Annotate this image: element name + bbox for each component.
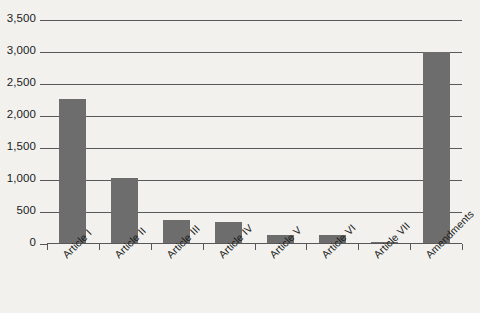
y-axis-tick-label: 500 [0,204,36,216]
y-axis-labels: 05001,0001,5002,0002,5003,0003,500 [0,0,36,313]
x-axis-tick [462,244,463,250]
gridline [47,148,462,149]
bar [59,99,86,244]
y-axis-tick [40,20,47,21]
gridline [47,52,462,53]
gridline [47,84,462,85]
y-axis-tick-label: 1,000 [0,172,36,184]
x-axis-tick [358,244,359,250]
y-axis-tick-label: 3,500 [0,12,36,24]
y-axis-tick [40,180,47,181]
y-axis-tick-label: 2,000 [0,108,36,120]
bar [423,52,450,244]
y-axis-tick [40,116,47,117]
y-axis-tick [40,148,47,149]
x-axis-tick [151,244,152,250]
y-axis-tick-label: 2,500 [0,76,36,88]
y-axis-tick [40,52,47,53]
x-axis-tick [47,244,48,250]
gridline [47,20,462,21]
x-axis-tick [306,244,307,250]
gridline [47,116,462,117]
y-axis-tick [40,212,47,213]
y-axis-tick [40,84,47,85]
x-axis-tick [255,244,256,250]
x-axis-tick [99,244,100,250]
gridline [47,212,462,213]
y-axis-tick-label: 0 [0,236,36,248]
plot-area [47,20,462,244]
y-axis-tick [40,244,47,245]
x-axis-tick [410,244,411,250]
x-axis-tick [203,244,204,250]
y-axis-tick-label: 3,000 [0,44,36,56]
y-axis-tick-label: 1,500 [0,140,36,152]
bar-chart: 05001,0001,5002,0002,5003,0003,500 Artic… [0,0,480,313]
gridline [47,180,462,181]
